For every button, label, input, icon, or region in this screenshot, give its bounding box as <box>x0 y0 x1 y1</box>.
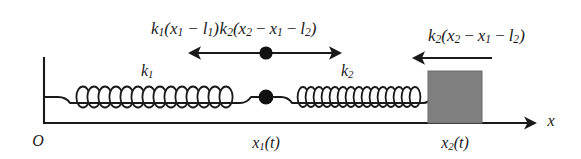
fl3-x2-sub: 2 <box>455 33 461 46</box>
mass-1-point <box>259 90 274 105</box>
k1-sub: 1 <box>148 68 153 80</box>
fl3-x1-sub: 1 <box>485 33 491 46</box>
x2-arg: (t) <box>454 134 469 152</box>
svg-text:k2: k2 <box>341 62 354 80</box>
mass1-force-origin-dot <box>259 46 272 59</box>
x-axis-label: x <box>546 112 554 129</box>
svg-text:k1(x1−l1): k1(x1−l1) <box>151 19 219 39</box>
spring-1-coils <box>76 87 232 108</box>
fl3-rparen: ) <box>518 26 525 45</box>
svg-text:x1(t): x1(t) <box>251 134 280 152</box>
fl2-x1-sub: 1 <box>277 26 283 39</box>
x2-base: x <box>440 134 448 151</box>
fl1-minus: − <box>187 19 198 38</box>
mass-2-block <box>428 71 482 123</box>
svg-text:k2(x2−x1−l2): k2(x2−x1−l2) <box>220 19 317 39</box>
fl1-x-sub: 1 <box>178 26 184 39</box>
fl1-rparen: ) <box>212 19 219 38</box>
spring-2-stiffness-label: k2 <box>341 62 354 80</box>
position-label-x1: x1(t) <box>251 134 280 152</box>
spring-2 <box>272 87 440 107</box>
force-label-spring2-on-mass2: k2(x2−x1−l2) <box>428 26 525 46</box>
fl2-x2-sub: 2 <box>246 26 252 39</box>
origin-label-text: O <box>32 132 44 149</box>
force-arrow-pair-mass1 <box>188 46 342 59</box>
svg-text:k2(x2−x1−l2): k2(x2−x1−l2) <box>428 26 525 46</box>
force-label-spring1-on-mass1: k1(x1−l1) <box>151 19 219 39</box>
fl2-minus1: − <box>255 19 266 38</box>
origin-label: O <box>32 132 44 149</box>
spring-1-stiffness-label: k1 <box>141 62 154 80</box>
spring-1 <box>44 87 260 108</box>
fl3-minus1: − <box>463 26 474 45</box>
force-arrow-mass2 <box>412 51 492 64</box>
diagram-canvas: k1 k2 k1(x1−l1) k2(x2−x1−l2) k2(x2−x1−l2… <box>0 0 581 159</box>
fl2-minus2: − <box>286 19 297 38</box>
svg-text:x2(t): x2(t) <box>440 134 469 152</box>
fl3-minus2: − <box>494 26 505 45</box>
x1-base: x <box>251 134 259 151</box>
physics-diagram-figure: k1 k2 k1(x1−l1) k2(x2−x1−l2) k2(x2−x1−l2… <box>0 0 581 159</box>
x1-arg: (t) <box>265 134 280 152</box>
force-label-spring2-on-mass1: k2(x2−x1−l2) <box>220 19 317 39</box>
svg-text:k1: k1 <box>141 62 154 80</box>
x-axis-label-text: x <box>546 112 554 129</box>
k2-sub: 2 <box>348 68 354 80</box>
position-label-x2: x2(t) <box>440 134 469 152</box>
fl2-rparen: ) <box>310 19 317 38</box>
